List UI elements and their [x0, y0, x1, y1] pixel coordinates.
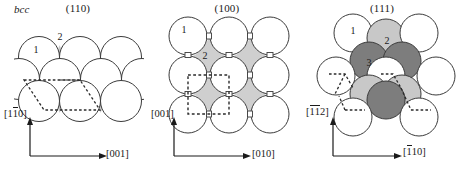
atom-circle-white: [317, 57, 355, 95]
atom-circle: [210, 17, 248, 55]
figure-caption: [0, 163, 462, 173]
atom-label-2: 2: [385, 35, 390, 46]
axis-label-vertical-100: [001]: [151, 108, 174, 119]
bcc-plane-packing-figure: bcc (110): [0, 0, 462, 173]
axis-label-horizontal-111: [110]: [403, 146, 426, 157]
axis-arrow-horizontal: [243, 153, 251, 159]
axis-arrow-vertical: [27, 117, 33, 125]
atom-circle: [251, 56, 289, 94]
axis-label-horizontal-100: [010]: [252, 148, 275, 159]
axis-arrow-horizontal: [394, 153, 402, 159]
atom-circle: [169, 17, 207, 55]
atom-label-3: 3: [367, 57, 372, 68]
panel-100: (100): [152, 0, 307, 173]
axis-arrow-vertical: [330, 117, 336, 125]
atom-circle-white: [417, 57, 455, 95]
atom-circle: [251, 17, 289, 55]
plane-label-111: (111): [317, 2, 447, 14]
axis-label-vertical-111: [112]: [306, 106, 329, 117]
atom-label-2: 2: [58, 31, 63, 42]
atom-label-2: 2: [203, 50, 208, 61]
plane-label-100: (100): [162, 2, 292, 14]
panel-110: bcc (110): [0, 0, 152, 173]
atom-label-1: 1: [34, 44, 39, 55]
atom-label-1: 1: [182, 24, 187, 35]
plane-label-110: (110): [18, 2, 138, 14]
atom-label-1: 1: [351, 25, 356, 36]
axis-label-vertical-110: [110]: [4, 108, 27, 119]
axis-label-horizontal-110: [001]: [106, 148, 129, 159]
panel-111: (111): [307, 0, 462, 173]
